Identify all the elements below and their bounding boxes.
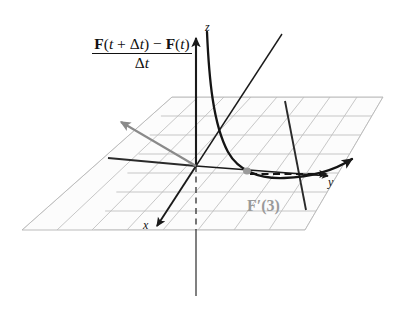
formula-numerator: F(t + Δt) − F(t) bbox=[92, 36, 192, 54]
point-of-tangency bbox=[243, 168, 251, 175]
x-axis-label: x bbox=[143, 218, 148, 233]
formula-denominator: Δt bbox=[62, 55, 222, 71]
derivative-label: F′(3) bbox=[247, 197, 280, 215]
difference-quotient-formula: F(t + Δt) − F(t) Δt bbox=[62, 36, 222, 72]
z-axis-label: z bbox=[205, 20, 210, 35]
y-axis-label: y bbox=[328, 175, 333, 190]
